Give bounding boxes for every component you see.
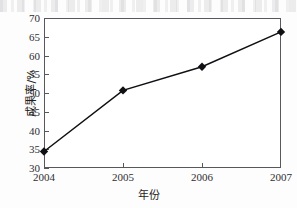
scan-artifact-band [0,0,297,12]
series-line [44,32,281,152]
y-tick-label-70: 70 [0,13,40,24]
y-axis-title: 成果率/% [22,69,38,116]
y-tick-label-65: 65 [0,31,40,42]
x-tick-label-2004: 2004 [14,172,74,183]
x-tick-label-2006: 2006 [172,172,232,183]
y-tick-label-40: 40 [0,125,40,136]
data-series-line [44,18,281,168]
data-point-2007 [277,28,285,36]
x-axis-title: 年份 [0,186,297,202]
y-tick-label-60: 60 [0,50,40,61]
y-tick-label-35: 35 [0,144,40,155]
x-tick-label-2007: 2007 [251,172,297,183]
chart-screenshot: 303540455055606570 2004200520062007 成果率/… [0,0,297,208]
y-tick-30 [44,168,49,169]
x-tick-label-2005: 2005 [93,172,153,183]
data-point-2006 [198,63,206,71]
